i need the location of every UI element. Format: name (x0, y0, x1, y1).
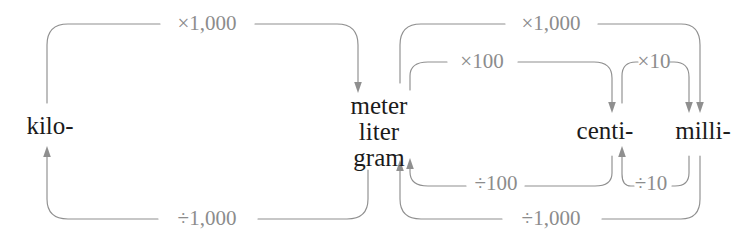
edge-label-milli-to-base: ÷1,000 (522, 206, 581, 230)
arrowhead-base-to-kilo (43, 146, 51, 157)
edge-path-kilo-to-base-right (255, 24, 358, 83)
edge-milli-to-centi: ÷10 (618, 146, 689, 195)
edge-path-base-to-kilo-right (258, 170, 368, 219)
edge-path-centi-to-base-right (525, 156, 612, 186)
node-label-liter: liter (359, 118, 400, 145)
edge-centi-to-base: ÷100 (406, 156, 612, 195)
edge-label-centi-to-milli: ×10 (638, 49, 671, 73)
edge-label-kilo-to-base: ×1,000 (177, 11, 236, 35)
edge-label-centi-to-base: ÷100 (474, 171, 517, 195)
edge-path-base-to-kilo-left (47, 156, 158, 219)
arrowhead-centi-to-base (406, 158, 414, 169)
edge-label-base-to-centi: ×100 (460, 49, 503, 73)
edge-base-to-centi: ×100 (410, 49, 616, 113)
edge-path-centi-to-base-left (410, 168, 466, 186)
edge-path-centi-to-milli-right (670, 62, 689, 103)
arrowhead-centi-to-milli (685, 102, 693, 113)
node-label-meter: meter (351, 92, 409, 119)
arrowhead-milli-to-centi (618, 146, 626, 157)
metric-conversion-diagram: ×1,000 ÷1,000 ×1,000 ×100 ×1 (0, 0, 734, 249)
edge-label-base-to-milli: ×1,000 (521, 11, 580, 35)
node-label-gram: gram (353, 144, 405, 171)
arrowhead-base-to-centi (608, 102, 616, 113)
edge-label-base-to-kilo: ÷1,000 (178, 206, 237, 230)
edge-path-centi-to-milli-left (622, 62, 638, 103)
edge-path-base-to-centi-right (518, 62, 612, 103)
edge-path-base-to-centi-left (410, 62, 447, 90)
edge-centi-to-milli: ×10 (622, 49, 693, 113)
node-label-kilo: kilo- (26, 112, 73, 139)
edge-path-milli-to-centi-right (672, 156, 689, 186)
edge-label-milli-to-centi: ÷10 (635, 171, 668, 195)
edge-kilo-to-base: ×1,000 (47, 11, 362, 103)
edge-base-to-kilo: ÷1,000 (43, 146, 368, 230)
edge-path-kilo-to-base (47, 24, 160, 103)
edge-path-milli-to-centi-left (622, 156, 634, 186)
node-label-milli: milli- (675, 117, 731, 144)
metric-conversion-svg: ×1,000 ÷1,000 ×1,000 ×100 ×1 (0, 0, 734, 249)
node-base-units: meter liter gram (351, 92, 409, 171)
node-label-centi: centi- (577, 117, 634, 144)
arrowhead-base-to-milli (696, 102, 704, 113)
